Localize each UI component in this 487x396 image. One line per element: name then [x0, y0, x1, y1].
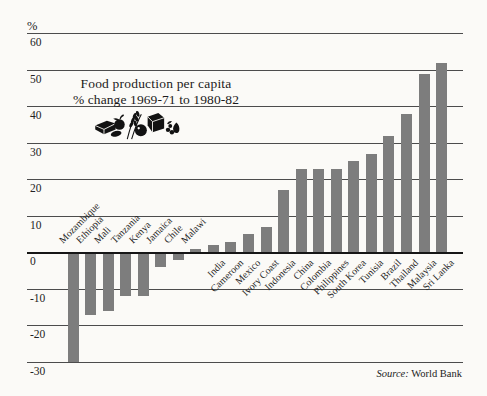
bar-philippines [331, 169, 342, 253]
bar-mali [103, 253, 114, 311]
source-text-label: World Bank [411, 368, 462, 379]
grid-line [27, 362, 463, 363]
bar-ivory-coast [261, 227, 272, 253]
bar-brazil [383, 136, 394, 253]
y-tick-label: -20 [30, 328, 45, 340]
bar-mexico [243, 234, 254, 252]
y-tick-label: 60 [30, 36, 42, 48]
plot-area: 6050403020100-10-20-30MozambiqueEthiopia… [0, 0, 487, 396]
bar-indonesia [278, 190, 289, 252]
grid-line [27, 143, 463, 144]
grid-line [27, 70, 463, 71]
y-tick-label: 20 [30, 182, 42, 194]
chart-figure: % Food production per capita % change 19… [0, 0, 487, 396]
zero-axis-line [27, 252, 463, 254]
grid-line [27, 33, 463, 34]
bar-sri-lanka [436, 63, 447, 253]
y-tick-label: 40 [30, 109, 42, 121]
bar-china [296, 169, 307, 253]
bar-south-korea [348, 161, 359, 252]
chart-title: Food production per capita [58, 76, 254, 92]
bar-tanzania [120, 253, 131, 297]
bar-kenya [138, 253, 149, 297]
y-tick-label: 30 [30, 146, 42, 158]
grid-line [27, 179, 463, 180]
y-tick-label: 10 [30, 219, 42, 231]
chart-subtitle: % change 1969-71 to 1980-82 [58, 92, 254, 108]
bar-chile [173, 253, 184, 260]
bar-thailand [401, 114, 412, 253]
y-tick-label: 50 [30, 73, 42, 85]
bar-malaysia [419, 74, 430, 253]
source-note: Source: World Bank [377, 368, 462, 379]
country-label: Malawi [179, 216, 209, 246]
chart-title-block: Food production per capita % change 1969… [58, 76, 254, 108]
bar-ethiopia [85, 253, 96, 315]
bar-tunisia [366, 154, 377, 253]
y-tick-label: -10 [30, 292, 45, 304]
y-tick-label: -30 [30, 365, 45, 377]
bar-colombia [313, 169, 324, 253]
bar-mozambique [68, 253, 79, 363]
source-prefix-label: Source: [377, 368, 409, 379]
y-tick-label: 0 [30, 255, 36, 267]
food-cluster-icon [92, 109, 180, 142]
bar-jamaica [155, 253, 166, 268]
grid-line [27, 325, 463, 326]
